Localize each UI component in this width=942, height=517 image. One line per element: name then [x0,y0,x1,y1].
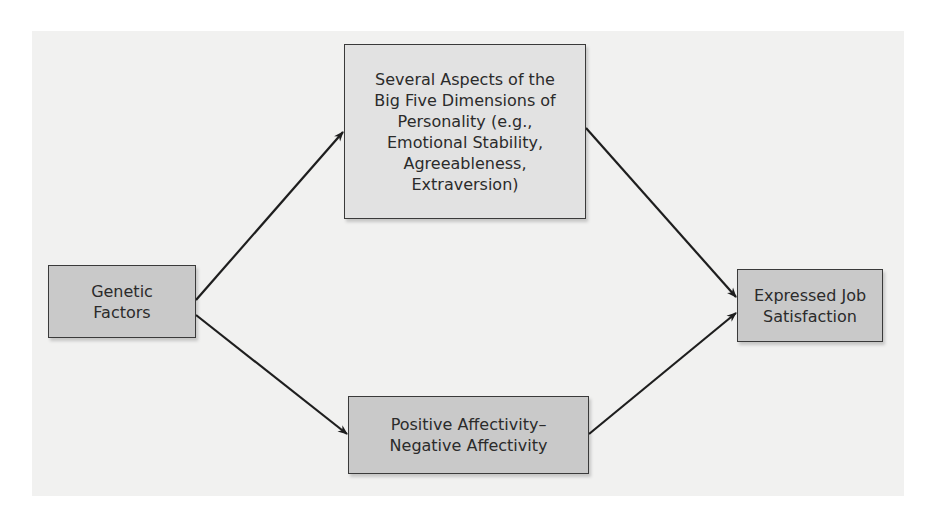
arrow-genetic-to-affectivity [196,315,347,434]
node-job-satisfaction: Expressed Job Satisfaction [737,269,883,342]
arrow-affectivity-to-job-satisfaction [589,313,736,434]
node-affectivity: Positive Affectivity– Negative Affectivi… [348,396,589,474]
node-genetic-factors: Genetic Factors [48,265,196,338]
node-genetic-factors-label: Genetic Factors [91,281,153,323]
node-job-satisfaction-label: Expressed Job Satisfaction [754,285,866,327]
arrow-big-five-to-job-satisfaction [586,128,736,297]
arrow-genetic-to-big-five [196,132,343,300]
node-affectivity-label: Positive Affectivity– Negative Affectivi… [390,414,548,456]
node-big-five-personality-label: Several Aspects of the Big Five Dimensio… [374,69,555,195]
node-big-five-personality: Several Aspects of the Big Five Dimensio… [344,44,586,219]
